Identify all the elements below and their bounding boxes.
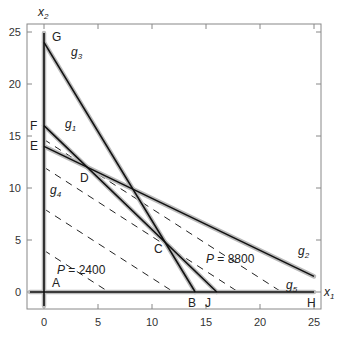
- point-C: C: [154, 242, 163, 256]
- point-D: D: [80, 171, 89, 185]
- point-F: F: [30, 119, 37, 133]
- y-tick-5: 5: [15, 234, 21, 246]
- label-p8800: P = 8800: [206, 252, 255, 266]
- x-tick-25: 25: [308, 316, 320, 328]
- point-E: E: [30, 139, 38, 153]
- point-J: J: [205, 296, 211, 310]
- x-axis-label: x1: [323, 285, 334, 301]
- label-g1: g1: [65, 117, 76, 133]
- point-B: B: [188, 296, 196, 310]
- point-A: A: [52, 276, 60, 290]
- point-G: G: [52, 30, 61, 44]
- y-tick-25: 25: [9, 26, 21, 38]
- y-tick-10: 10: [9, 182, 21, 194]
- y-tick-0: 0: [15, 286, 21, 298]
- label-p2400: P = 2400: [57, 263, 106, 277]
- point-H: H: [307, 296, 316, 310]
- y-axis-label: x2: [37, 5, 49, 21]
- y-tick-15: 15: [9, 130, 21, 142]
- label-g4: g4: [50, 183, 62, 199]
- x-tick-15: 15: [200, 316, 212, 328]
- x-tick-5: 5: [95, 316, 101, 328]
- label-g3: g3: [71, 45, 83, 61]
- label-g5: g5: [286, 278, 298, 294]
- x-tick-0: 0: [41, 316, 47, 328]
- x-tick-20: 20: [254, 316, 266, 328]
- lp-chart: 0 5 10 15 20 25 0 5 10 15 20 25 x2 x1 g1…: [0, 0, 344, 342]
- label-g2: g2: [298, 244, 310, 260]
- x-tick-10: 10: [146, 316, 158, 328]
- line-g3: [44, 42, 195, 292]
- y-tick-20: 20: [9, 78, 21, 90]
